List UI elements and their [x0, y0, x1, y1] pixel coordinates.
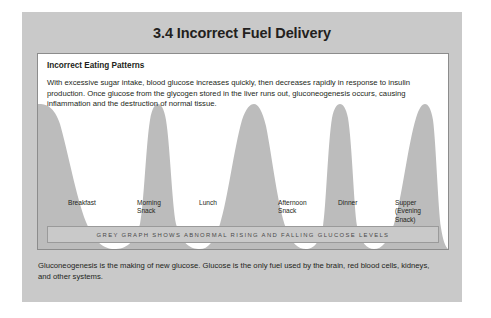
page-title: 3.4 Incorrect Fuel Delivery [22, 25, 462, 41]
graph-label-afternoon-snack: Afternoon Snack [278, 199, 307, 216]
graph-label-morning-snack: Morning Snack [137, 199, 161, 216]
panel-text-block: Incorrect Eating Patterns With excessive… [38, 54, 448, 110]
graph-caption-box: GREY GRAPH SHOWS ABNORMAL RISING AND FAL… [47, 226, 439, 243]
graph-label-lunch: Lunch [199, 199, 217, 207]
graph-label-dinner: Dinner [338, 199, 357, 207]
panel-heading: Incorrect Eating Patterns [47, 61, 448, 70]
panel-body-text: With excessive sugar intake, blood gluco… [47, 78, 438, 110]
content-panel: Incorrect Eating Patterns With excessive… [37, 53, 449, 250]
lesson-card: 3.4 Incorrect Fuel Delivery Incorrect Ea… [22, 12, 462, 302]
footer-paragraph: Gluconeogenesis is the making of new glu… [38, 260, 442, 282]
graph-caption-text: GREY GRAPH SHOWS ABNORMAL RISING AND FAL… [97, 232, 390, 238]
graph-label-breakfast: Breakfast [68, 199, 96, 207]
graph-label-supper: Supper (Evening Snack) [395, 199, 421, 224]
